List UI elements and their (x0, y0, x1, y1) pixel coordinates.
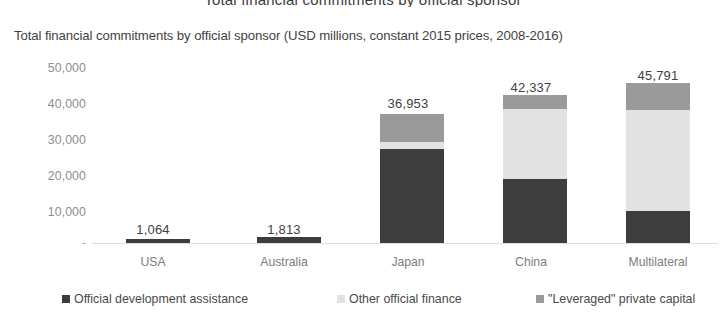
bar-segment (380, 149, 444, 243)
category-label-japan: Japan (348, 255, 468, 269)
legend-item-other-official-finance[interactable]: Other official finance (337, 292, 462, 306)
bar-segment (380, 142, 444, 149)
legend-label-leveraged-private-capital: "Leveraged" private capital (548, 292, 695, 306)
chart-legend: Official development assistance Other of… (0, 292, 726, 312)
legend-item-oda[interactable]: Official development assistance (62, 292, 248, 306)
category-label-usa: USA (93, 255, 213, 269)
y-axis-tick-zero: - (0, 236, 86, 250)
bar-segment (626, 83, 690, 110)
chart-container: Total financial commitments by official … (0, 0, 726, 318)
legend-item-leveraged-private-capital[interactable]: "Leveraged" private capital (536, 292, 695, 306)
bar-total-label-japan: 36,953 (348, 96, 468, 111)
bar-segment (257, 237, 321, 243)
bar-japan[interactable] (380, 114, 444, 243)
legend-swatch-leveraged-private-capital (536, 295, 544, 303)
y-axis-tick-20000: 20,000 (0, 169, 86, 183)
bar-china[interactable] (503, 95, 567, 243)
y-axis-tick-10000: 10,000 (0, 205, 86, 219)
bar-multilateral[interactable] (626, 83, 690, 243)
bar-segment (626, 110, 690, 211)
y-axis-tick-50000: 50,000 (0, 61, 86, 75)
bar-segment (503, 109, 567, 179)
category-label-china: China (471, 255, 591, 269)
bar-australia[interactable] (257, 237, 321, 243)
bar-usa[interactable] (126, 239, 190, 243)
legend-label-oda: Official development assistance (74, 292, 248, 306)
y-axis-tick-30000: 30,000 (0, 133, 86, 147)
bar-segment (126, 239, 190, 243)
legend-swatch-other-official-finance (337, 295, 345, 303)
bar-segment (503, 179, 567, 243)
plot-area: 50,000 40,000 30,000 20,000 10,000 - 1,0… (0, 0, 726, 318)
bar-total-label-usa: 1,064 (93, 222, 213, 237)
axis-baseline (92, 243, 718, 244)
bar-total-label-australia: 1,813 (224, 222, 344, 237)
legend-label-other-official-finance: Other official finance (349, 292, 462, 306)
bar-total-label-multilateral: 45,791 (598, 68, 718, 83)
bar-segment (503, 95, 567, 109)
y-axis-tick-40000: 40,000 (0, 97, 86, 111)
category-label-australia: Australia (224, 255, 344, 269)
legend-swatch-oda (62, 295, 70, 303)
bar-segment (626, 211, 690, 243)
bar-total-label-china: 42,337 (471, 80, 591, 95)
category-label-multilateral: Multilateral (598, 255, 718, 269)
bar-segment (380, 114, 444, 142)
